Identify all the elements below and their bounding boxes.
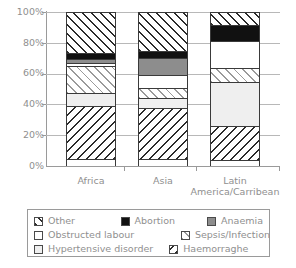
x-tick-1 — [124, 166, 125, 171]
segment-latin-hypertensive — [211, 82, 259, 127]
segment-latin-sepsis — [211, 68, 259, 83]
legend-label-sepsis: Sepsis/Infection — [195, 230, 270, 240]
legend-swatch-hypertensive-disorder-icon — [34, 245, 43, 254]
segment-latin-other — [211, 12, 259, 26]
legend-label-anaemia: Anaemia — [221, 216, 263, 226]
x-axis-line — [46, 166, 280, 167]
y-tick-label-80: 80% — [4, 38, 44, 48]
x-label-latin-line2: America/Carribean — [180, 186, 290, 197]
legend-label-hypertensive-disorder: Hypertensive disorder — [48, 244, 153, 254]
legend-row-2: Obstructed labour Sepsis/Infection — [34, 228, 263, 242]
legend-item-hypertensive-disorder[interactable]: Hypertensive disorder Haemorraghe — [34, 244, 263, 254]
stacked-bar-chart: 100% 80% 60% 40% 20% 0% — [0, 0, 296, 268]
y-tick-label-40: 40% — [4, 99, 44, 109]
segment-asia-other — [139, 12, 187, 52]
y-tick-label-60: 60% — [4, 68, 44, 78]
legend-label-haemorraghe: Haemorraghe — [183, 244, 248, 254]
legend-swatch-abortion-icon — [121, 217, 130, 226]
legend-swatch-other-icon — [34, 217, 43, 226]
legend-label-obstructed-labour: Obstructed labour — [48, 230, 134, 240]
legend-row-3: Hypertensive disorder Haemorraghe — [34, 242, 263, 256]
y-tick-label-0: 0% — [4, 161, 44, 171]
legend-item-anaemia[interactable]: Anaemia — [207, 216, 263, 226]
legend: Other Abortion Anaemia Obstructed labour… — [27, 209, 270, 257]
segment-asia-anaemia — [139, 58, 187, 76]
legend-item-obstructed-labour[interactable]: Obstructed labour Sepsis/Infection — [34, 230, 270, 240]
segment-asia-haemorraghe — [139, 108, 187, 160]
legend-label-abortion: Abortion — [135, 216, 175, 226]
legend-swatch-haemorraghe-icon — [169, 245, 178, 254]
bar-africa[interactable] — [66, 12, 116, 166]
x-tick-3 — [279, 166, 280, 171]
x-label-latin-line1: Latin — [180, 175, 290, 186]
plot-area — [46, 12, 280, 166]
segment-africa-other — [67, 12, 115, 54]
bar-latin-america[interactable] — [210, 12, 260, 166]
legend-swatch-anaemia-icon — [207, 217, 216, 226]
legend-swatch-obstructed-labour-icon — [34, 231, 43, 240]
segment-latin-haemorraghe — [211, 126, 259, 161]
legend-row-1: Other Abortion Anaemia — [34, 214, 263, 228]
legend-label-other: Other — [48, 216, 75, 226]
legend-swatch-sepsis-icon — [181, 231, 190, 240]
segment-africa-sepsis — [67, 66, 115, 94]
legend-item-other[interactable]: Other — [34, 216, 121, 226]
segment-asia-obstructed — [139, 75, 187, 89]
x-tick-2 — [196, 166, 197, 171]
segment-africa-hypertensive — [67, 93, 115, 107]
segment-africa-haemorraghe — [67, 106, 115, 160]
y-tick-label-20: 20% — [4, 130, 44, 140]
bar-asia[interactable] — [138, 12, 188, 166]
segment-latin-abortion — [211, 25, 259, 42]
legend-item-abortion[interactable]: Abortion — [121, 216, 208, 226]
segment-latin-obstructed — [211, 41, 259, 69]
x-label-latin-america: Latin America/Carribean — [180, 175, 290, 197]
y-tick-label-100: 100% — [4, 7, 44, 17]
